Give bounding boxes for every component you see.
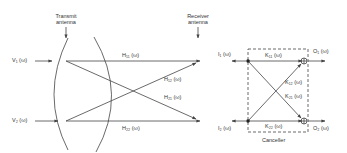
transmit-antenna-arc: [54, 38, 68, 150]
v2-label: V₂ (ω): [12, 118, 27, 124]
canceller-box: [248, 49, 308, 132]
k21-label: K₂₁ (ω): [285, 94, 302, 100]
transmit-label-line2: antenna: [46, 20, 86, 26]
h11-label: H₁₁ (ω): [122, 53, 139, 59]
receiver-antenna-arc: [94, 37, 112, 152]
node-i1: [246, 59, 250, 63]
o1-label: O₁ (ω): [313, 49, 329, 55]
i1-label: I₁ (ω): [218, 52, 231, 58]
receiver-antenna-label: Receiver antenna: [178, 14, 218, 25]
h21-label: H₂₁ (ω): [164, 95, 181, 101]
transmit-antenna-label: Transmit antenna: [46, 14, 86, 25]
h21-path: [66, 61, 196, 119]
node-i2: [246, 119, 250, 123]
h12-path: [66, 63, 196, 121]
h22-label: H₂₂ (ω): [122, 126, 140, 132]
k21-path: [248, 61, 301, 118]
canceller-label: Canceller: [262, 138, 285, 144]
o2-label: O₂ (ω): [313, 126, 329, 132]
k22-label: K₂₂ (ω): [265, 124, 282, 130]
i2-label: I₂ (ω): [218, 126, 231, 132]
v1-label: V₁ (ω): [12, 58, 27, 64]
k11-label: K₁₁ (ω): [265, 53, 282, 59]
h12-label: H₁₂ (ω): [164, 77, 181, 83]
receiver-label-line2: antenna: [178, 20, 218, 26]
k12-label: K₁₂ (ω): [285, 80, 302, 86]
